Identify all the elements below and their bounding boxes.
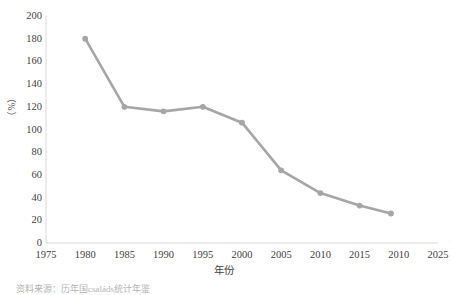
x-tick-label: 1980 xyxy=(65,249,105,260)
x-tick-label: 2010 xyxy=(379,249,419,260)
y-axis-title: （%） xyxy=(7,99,18,121)
x-tick-label-group: 1975198019851990199520002005201020152010… xyxy=(0,0,447,270)
x-tick-label: 2010 xyxy=(300,249,340,260)
x-tick-label: 2005 xyxy=(261,249,301,260)
x-tick-label: 2000 xyxy=(222,249,262,260)
figure-caption: 资料来源：历年国családs统计年鉴 xyxy=(16,284,436,295)
x-axis-title: 年份 xyxy=(0,265,447,277)
x-tick-label: 2025 xyxy=(418,249,453,260)
x-tick-label: 1990 xyxy=(144,249,184,260)
x-tick-label: 1995 xyxy=(183,249,223,260)
x-tick-label: 2015 xyxy=(340,249,380,260)
x-tick-label: 1975 xyxy=(26,249,66,260)
x-tick-label: 1985 xyxy=(104,249,144,260)
plot-area: 020406080100120140160180200 197519801985… xyxy=(0,0,447,270)
